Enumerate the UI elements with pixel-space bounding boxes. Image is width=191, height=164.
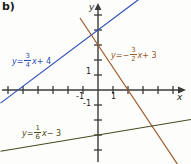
x-axis-label: x xyxy=(177,92,182,102)
eq-blue-fraction: 34 xyxy=(24,53,30,69)
y-axis-arrow xyxy=(95,3,102,10)
eq-brown-denominator: 2 xyxy=(130,56,136,63)
eq-olive-eq: = xyxy=(27,129,34,138)
brown-line xyxy=(80,18,191,164)
eq-olive-numerator: 1 xyxy=(34,125,40,132)
eq-brown-sign: − xyxy=(122,51,129,60)
eq-olive-denominator: 6 xyxy=(34,134,40,141)
eq-blue-eq: = xyxy=(17,57,24,66)
y-axis-label: y xyxy=(89,2,94,12)
y-tick-label-1: 1 xyxy=(86,67,91,76)
equation-label-olive: y=16x− 3 xyxy=(22,125,61,141)
eq-blue-denominator: 4 xyxy=(24,62,30,69)
eq-brown-numerator: 3 xyxy=(130,47,136,54)
equation-label-blue: y=34x+ 4 xyxy=(12,53,51,69)
eq-olive-fraction: 16 xyxy=(34,125,40,141)
eq-brown-fraction: 32 xyxy=(130,47,136,63)
eq-brown-tail: + 3 xyxy=(142,51,156,60)
eq-blue-numerator: 3 xyxy=(24,53,30,60)
eq-blue-tail: + 4 xyxy=(37,57,51,66)
panel-label: b) xyxy=(2,0,15,13)
graph-figure: b) y x -1 1 1 -1 y=34x+ 4 y=−32x+ 3 y=16… xyxy=(0,0,191,164)
equation-label-brown: y=−32x+ 3 xyxy=(111,47,157,63)
eq-olive-tail: − 3 xyxy=(47,129,61,138)
y-tick-label-neg1: -1 xyxy=(83,99,91,108)
x-tick-label-1: 1 xyxy=(111,92,116,101)
